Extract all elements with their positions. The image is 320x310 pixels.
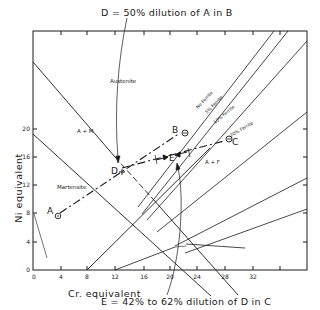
x-tick-8: 8: [85, 273, 89, 280]
x-tick-32: 32: [249, 273, 257, 280]
40pct-ferrite-line: [175, 178, 307, 246]
x-tick-28: 28: [221, 273, 229, 280]
region-a-plus-m: A + M: [77, 128, 94, 134]
100pct-ferrite-line: [115, 247, 175, 270]
region-austenite: Austenite: [110, 78, 137, 84]
point-a: A: [47, 206, 61, 219]
x-tick-12: 12: [111, 273, 119, 280]
line-a-to-b: [60, 133, 180, 213]
x-tick-4: 4: [59, 273, 63, 280]
point-d-label: D: [111, 166, 118, 176]
y-tick-20: 20: [22, 125, 30, 132]
plot-frame: [33, 31, 307, 270]
annotation-e: E = 42% to 62% dilution of D in C: [101, 296, 271, 307]
x-tick-16: 16: [140, 273, 148, 280]
left-ticks: [33, 129, 37, 242]
ferrite-lines: [115, 31, 307, 270]
region-a-plus-f: A + F: [205, 159, 220, 165]
point-c-label: C: [232, 137, 238, 147]
right-ticks: [303, 129, 307, 242]
point-c: C: [226, 136, 238, 147]
label-10pct-ferrite: 10% Ferrite: [212, 104, 235, 125]
point-a-label: A: [47, 206, 54, 216]
point-e: E: [169, 153, 175, 163]
annotation-d: D = 50% dilution of A in B: [101, 7, 233, 18]
y-axis-label: Ni equivalent: [13, 153, 24, 222]
y-tick-8: 8: [26, 209, 30, 216]
point-b-label: B: [172, 125, 178, 135]
y-tick-4: 4: [26, 238, 30, 245]
point-b: B: [172, 125, 188, 136]
y-tick-0: 0: [26, 266, 30, 273]
bottom-ticks: [61, 266, 280, 270]
x-tick-24: 24: [193, 273, 201, 280]
10pct-ferrite-line: [147, 41, 307, 220]
leader-d: [116, 18, 127, 158]
no-ferrite-line: [138, 31, 274, 207]
x-tick-0: 0: [32, 273, 36, 280]
region-martensite: Martensite: [57, 184, 87, 190]
20pct-ferrite-line: [157, 112, 307, 232]
top-ticks: [61, 31, 280, 35]
label-20pct-ferrite: 20% Ferrite: [229, 120, 254, 137]
dilution-lines: [60, 133, 224, 213]
point-e-label: E: [169, 153, 175, 163]
schaeffler-diagram: 0 4 8 12 16 20 24 28 32 0 4 8 12 16 20 C…: [0, 0, 320, 310]
